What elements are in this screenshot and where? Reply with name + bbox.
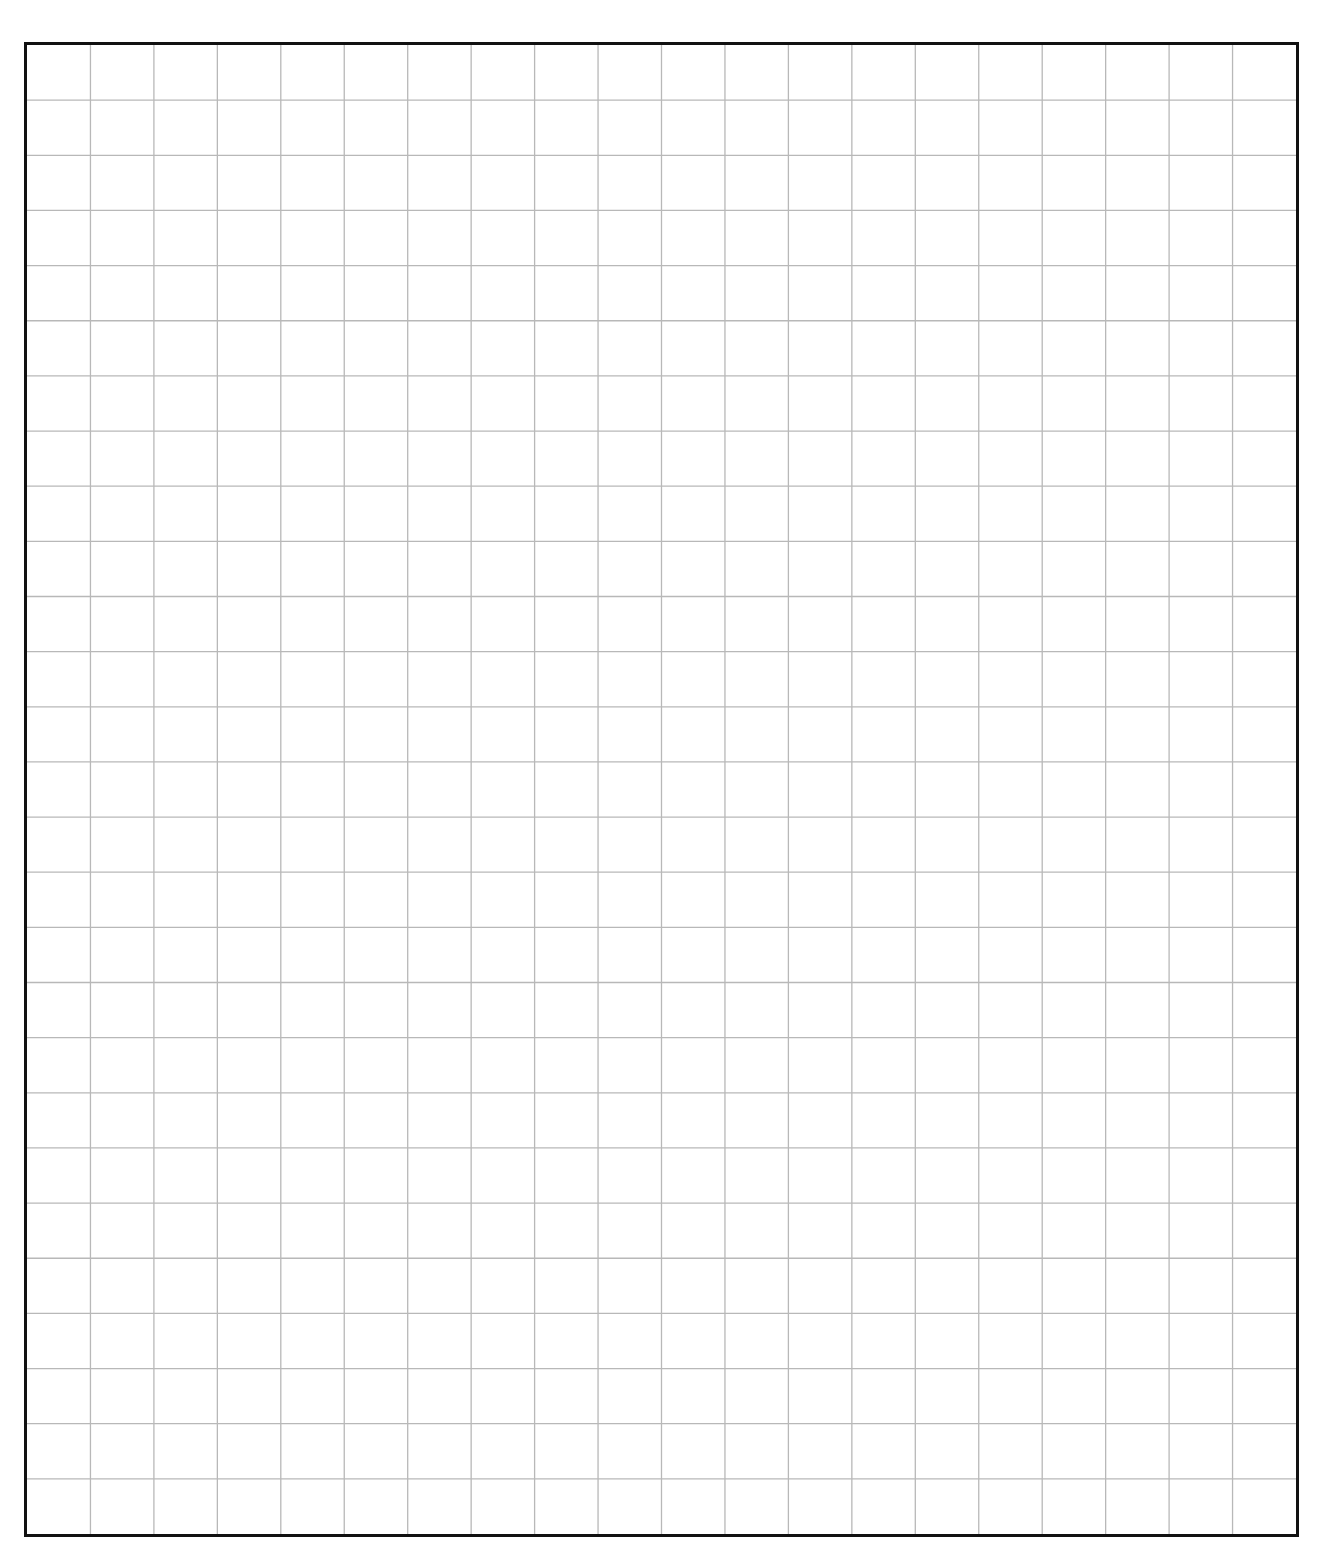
grid-paper-sheet: [24, 42, 1299, 1537]
grid-lines: [27, 45, 1296, 1534]
